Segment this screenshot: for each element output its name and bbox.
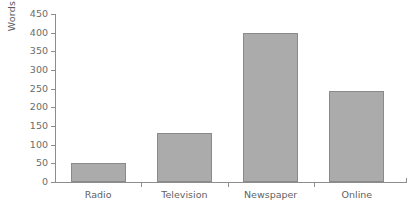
y-axis-tick-label: 250: [18, 84, 48, 94]
y-axis-tick-mark: [51, 33, 55, 34]
y-axis-tick-label: 400: [18, 28, 48, 38]
x-axis-category-label: Television: [141, 189, 227, 201]
y-axis-title: Words: [3, 0, 19, 123]
x-axis-tick-mark: [314, 183, 315, 187]
y-axis-tick-mark: [51, 126, 55, 127]
bar-chart: Words 050100150200250300350400450 RadioT…: [0, 0, 416, 214]
y-axis-tick-mark: [51, 89, 55, 90]
x-axis-category-label: Newspaper: [228, 189, 314, 201]
y-axis-tick-mark: [51, 145, 55, 146]
x-axis-end-cap: [406, 178, 407, 183]
y-axis-tick-label: 100: [18, 140, 48, 150]
y-axis-tick-mark: [51, 70, 55, 71]
y-axis-line: [55, 14, 56, 182]
y-axis-tick-label: 0: [18, 177, 48, 187]
y-axis-tick-label: 150: [18, 121, 48, 131]
bar: [157, 133, 212, 182]
bar: [243, 33, 298, 182]
x-axis-tick-mark: [228, 183, 229, 187]
bar: [329, 91, 384, 182]
y-axis-tick-mark: [51, 51, 55, 52]
y-axis-tick-label: 200: [18, 102, 48, 112]
y-axis-tick-mark: [51, 163, 55, 164]
y-axis-tick-mark: [51, 14, 55, 15]
y-axis-tick-label: 50: [18, 158, 48, 168]
x-axis-line: [55, 182, 407, 183]
x-axis-category-label: Online: [314, 189, 400, 201]
x-axis-tick-mark: [141, 183, 142, 187]
bar: [71, 163, 126, 182]
y-axis-tick-label: 350: [18, 46, 48, 56]
y-axis-tick-labels: 050100150200250300350400450: [18, 0, 48, 214]
x-axis-category-label: Radio: [55, 189, 141, 201]
y-axis-tick-mark: [51, 182, 55, 183]
y-axis-tick-label: 450: [18, 9, 48, 19]
y-axis-tick-label: 300: [18, 65, 48, 75]
y-axis-tick-mark: [51, 107, 55, 108]
